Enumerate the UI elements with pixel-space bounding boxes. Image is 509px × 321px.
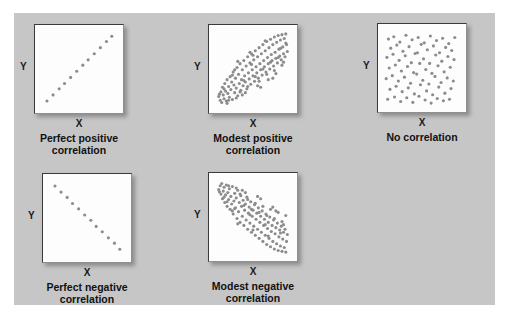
data-point: [386, 98, 389, 101]
data-point: [253, 80, 256, 83]
data-point: [226, 92, 229, 95]
data-point: [227, 99, 230, 102]
data-point: [437, 86, 440, 89]
data-point: [251, 228, 254, 231]
data-point: [248, 222, 251, 225]
data-point: [245, 218, 248, 221]
data-point: [273, 217, 276, 220]
data-point: [235, 96, 238, 99]
data-point: [241, 215, 244, 218]
data-point: [395, 85, 398, 88]
data-point: [233, 91, 236, 94]
data-point: [438, 51, 441, 54]
plot-box-perfect-positive: [34, 24, 124, 114]
data-point: [443, 70, 446, 73]
data-point: [232, 212, 235, 215]
scatter-panel-modest-positive: YXModest positivecorrelation: [208, 24, 298, 154]
y-axis-label-modest-negative: Y: [194, 210, 201, 220]
data-point: [428, 62, 431, 65]
data-point: [430, 102, 433, 105]
data-point: [218, 93, 221, 96]
data-point: [261, 43, 264, 46]
x-axis-label-perfect-negative: X: [42, 268, 132, 278]
data-point: [425, 89, 428, 92]
data-point: [269, 61, 272, 64]
data-point: [280, 220, 283, 223]
data-point: [274, 51, 277, 54]
data-point: [242, 59, 245, 62]
data-point: [238, 62, 241, 65]
data-point: [254, 49, 257, 52]
data-point: [269, 38, 272, 41]
scatter-points-modest-negative: [209, 173, 297, 261]
data-point: [246, 55, 249, 58]
data-point: [230, 80, 233, 83]
data-point: [395, 44, 398, 47]
data-point: [277, 34, 280, 37]
data-point: [248, 51, 251, 54]
data-point: [418, 62, 421, 65]
panel-caption-modest-negative: Modest negativecorrelation: [176, 280, 330, 305]
data-point: [231, 98, 234, 101]
data-point: [393, 95, 396, 98]
data-point: [271, 77, 274, 80]
data-point: [283, 246, 286, 249]
data-point: [270, 230, 273, 233]
data-point: [284, 214, 287, 217]
data-point: [231, 74, 234, 77]
data-point: [268, 215, 271, 218]
data-point: [256, 55, 259, 58]
data-point: [271, 224, 274, 227]
plot-area-perfect-positive: YX: [34, 24, 124, 114]
data-point: [273, 247, 276, 250]
data-point: [66, 196, 69, 199]
data-point: [242, 199, 245, 202]
data-point: [228, 96, 231, 99]
data-point: [407, 86, 410, 89]
data-point: [234, 77, 237, 80]
data-point: [248, 213, 251, 216]
data-point: [52, 93, 55, 96]
data-point: [220, 182, 223, 185]
caption-line-2: correlation: [10, 293, 164, 305]
data-point: [226, 78, 229, 81]
y-axis-label-no-correlation: Y: [363, 61, 370, 71]
data-point: [89, 219, 92, 222]
data-point: [268, 67, 271, 70]
caption-line-1: Perfect positive: [2, 132, 156, 144]
data-point: [271, 43, 274, 46]
data-point: [218, 190, 221, 193]
data-point: [285, 240, 288, 243]
data-point: [429, 34, 432, 37]
data-point: [238, 90, 241, 93]
data-point: [235, 87, 238, 90]
data-point: [424, 68, 427, 71]
data-point: [256, 228, 259, 231]
data-point: [277, 235, 280, 238]
data-point: [242, 79, 245, 82]
y-axis-label-perfect-negative: Y: [28, 211, 35, 221]
plot-area-modest-negative: YX: [208, 172, 298, 262]
data-point: [236, 222, 239, 225]
data-point: [58, 87, 61, 90]
data-point: [431, 93, 434, 96]
data-point: [392, 35, 395, 38]
data-point: [231, 185, 234, 188]
data-point: [227, 85, 230, 88]
data-point: [444, 46, 447, 49]
data-point: [95, 225, 98, 228]
data-point: [283, 228, 286, 231]
data-point: [273, 35, 276, 38]
data-point: [87, 58, 90, 61]
data-point: [249, 200, 252, 203]
data-point: [385, 56, 388, 59]
data-point: [274, 232, 277, 235]
data-point: [241, 93, 244, 96]
data-point: [236, 60, 239, 63]
scatter-panel-perfect-negative: YXPerfect negativecorrelation: [42, 173, 132, 303]
data-point: [258, 211, 261, 214]
data-point: [264, 223, 267, 226]
data-point: [280, 33, 283, 36]
data-point: [419, 83, 422, 86]
data-point: [417, 95, 420, 98]
